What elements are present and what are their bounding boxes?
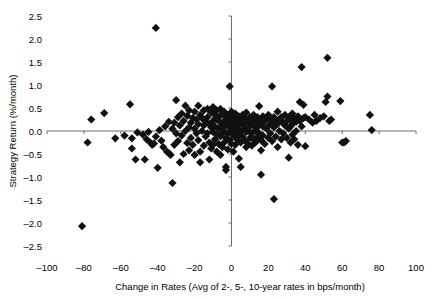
x-tick-label: 60 xyxy=(337,262,348,273)
data-point xyxy=(154,164,162,172)
x-tick-label: –80 xyxy=(76,262,92,273)
x-tick-label: 100 xyxy=(408,262,424,273)
data-point xyxy=(255,102,263,110)
y-axis-tick-labels: –2.5–2.0–1.5–1.0–0.50.00.51.01.52.02.5 xyxy=(24,11,43,252)
data-point xyxy=(237,163,245,171)
data-point xyxy=(176,158,184,166)
data-point xyxy=(128,134,136,142)
data-point xyxy=(301,142,309,150)
data-point xyxy=(336,97,344,105)
x-axis-title: Change in Rates (Avg of 2-, 5-, 10-year … xyxy=(115,281,365,292)
data-point xyxy=(368,126,376,134)
x-tick-label: 40 xyxy=(300,262,311,273)
y-axis-title: Strategy Return (%/month) xyxy=(7,75,18,188)
y-tick-label: 1.5 xyxy=(29,57,42,68)
data-point xyxy=(78,222,86,230)
y-tick-label: 0.0 xyxy=(29,126,42,137)
data-point xyxy=(172,96,180,104)
y-tick-label: –2.5 xyxy=(24,241,43,252)
data-point xyxy=(194,136,202,144)
data-point xyxy=(270,195,278,203)
x-tick-label: –100 xyxy=(36,262,57,273)
data-point xyxy=(128,144,136,152)
y-tick-label: –2.0 xyxy=(24,218,43,229)
y-tick-label: –1.0 xyxy=(24,172,43,183)
data-point xyxy=(235,155,243,163)
y-tick-label: –0.5 xyxy=(24,149,43,160)
y-tick-label: 2.0 xyxy=(29,34,42,45)
data-point xyxy=(268,82,276,90)
data-point xyxy=(126,100,134,108)
data-point xyxy=(131,155,139,163)
data-point xyxy=(152,24,160,32)
data-point xyxy=(366,111,374,119)
data-point xyxy=(100,109,108,117)
data-point xyxy=(323,54,331,62)
data-point xyxy=(120,132,128,140)
x-tick-label: 80 xyxy=(374,262,385,273)
x-tick-label: –20 xyxy=(187,262,203,273)
x-axis-tick-labels: –100–80–60–40–20020406080100 xyxy=(36,262,424,273)
data-points-layer xyxy=(78,24,376,230)
data-point xyxy=(298,63,306,71)
data-point xyxy=(141,155,149,163)
y-tick-label: 1.0 xyxy=(29,80,42,91)
data-point xyxy=(83,138,91,146)
y-tick-label: –1.5 xyxy=(24,195,43,206)
data-point xyxy=(285,154,293,162)
x-tick-label: 0 xyxy=(229,262,234,273)
data-point xyxy=(205,155,213,163)
x-tick-label: –40 xyxy=(150,262,166,273)
x-tick-label: 20 xyxy=(263,262,274,273)
data-point xyxy=(168,179,176,187)
data-point xyxy=(111,134,119,142)
data-point xyxy=(226,82,234,90)
data-point xyxy=(87,115,95,123)
data-point xyxy=(257,146,265,154)
data-point xyxy=(274,143,282,151)
chart-canvas: –100–80–60–40–20020406080100 –2.5–2.0–1.… xyxy=(0,0,436,300)
y-tick-label: 0.5 xyxy=(29,103,42,114)
y-tick-label: 2.5 xyxy=(29,11,42,22)
data-point xyxy=(257,171,265,179)
data-point xyxy=(196,158,204,166)
scatter-chart: –100–80–60–40–20020406080100 –2.5–2.0–1.… xyxy=(0,0,436,300)
x-tick-label: –60 xyxy=(113,262,129,273)
